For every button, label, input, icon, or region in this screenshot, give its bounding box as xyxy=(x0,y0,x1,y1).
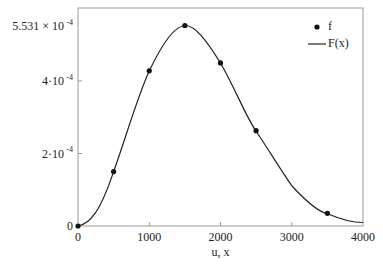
x-tick-label: 2000 xyxy=(209,230,233,244)
y-tick-exponent: -4 xyxy=(66,145,73,154)
x-tick-label: 4000 xyxy=(351,230,375,244)
y-ticks xyxy=(78,81,82,154)
chart: 0 1000 2000 3000 4000 u, x 0 2·10 -4 4·1… xyxy=(0,0,383,269)
points-f xyxy=(75,23,330,229)
legend-dot-icon xyxy=(314,24,319,29)
curve-F xyxy=(78,25,363,226)
legend: f F(x) xyxy=(308,19,349,50)
x-tick-labels: 0 1000 2000 3000 4000 xyxy=(75,230,375,244)
plot-frame xyxy=(78,8,363,226)
y-tick-label-4e-4: 4·10 xyxy=(42,74,64,88)
legend-label-f: f xyxy=(328,19,332,33)
x-tick-label: 3000 xyxy=(280,230,304,244)
y-tick-exponent: -4 xyxy=(66,73,73,82)
legend-label-F: F(x) xyxy=(328,36,349,50)
y-tick-label-2e-4: 2·10 xyxy=(42,147,64,161)
y-tick-exponent: -4 xyxy=(66,18,73,27)
x-tick-label: 1000 xyxy=(137,230,161,244)
x-tick-label: 0 xyxy=(75,230,81,244)
x-axis-label: u, x xyxy=(212,245,230,259)
y-tick-label-max: 5.531 × 10 xyxy=(12,19,64,33)
y-tick-labels: 0 2·10 -4 4·10 -4 5.531 × 10 -4 xyxy=(12,18,73,234)
y-tick-label-0: 0 xyxy=(67,219,73,233)
x-ticks xyxy=(149,222,292,226)
